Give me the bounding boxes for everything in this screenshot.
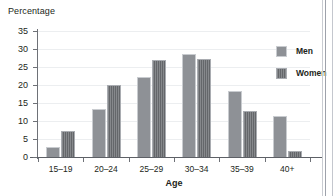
- y-axis-tick-label: 10: [6, 116, 28, 126]
- legend: Men Women: [276, 40, 327, 84]
- page-edge-rule-1: [322, 0, 323, 196]
- x-axis-tick: [265, 158, 266, 162]
- bar-women-40+: [288, 151, 302, 157]
- y-axis-tick: [33, 157, 37, 158]
- legend-swatch-women-icon: [276, 68, 287, 79]
- bar-men-25-29: [137, 77, 151, 157]
- bar-women-15-19: [61, 131, 75, 157]
- bar-women-25-29: [152, 60, 166, 157]
- y-axis-tick-label: 25: [6, 62, 28, 72]
- page-edge-rule-2: [325, 0, 326, 196]
- plot-area: [38, 31, 310, 157]
- chart-screenshot: Percentage 05101520253035 15–1920–2425–2…: [0, 0, 335, 196]
- bar-men-20-24: [92, 109, 106, 157]
- x-axis-tick: [83, 158, 84, 162]
- y-axis-tick: [33, 139, 37, 140]
- x-axis-tick: [310, 158, 311, 162]
- x-axis-tick-label: 25–29: [129, 164, 174, 174]
- y-axis-tick-label: 0: [6, 152, 28, 162]
- y-axis-tick-label: 20: [6, 80, 28, 90]
- y-axis-tick: [33, 121, 37, 122]
- x-axis-title: Age: [38, 178, 310, 188]
- legend-item-women[interactable]: Women: [276, 62, 327, 84]
- x-axis-line: [30, 157, 323, 158]
- x-axis-tick-label: 40+: [265, 164, 310, 174]
- bar-men-35-39: [228, 91, 242, 157]
- x-axis-tick-label: 30–34: [174, 164, 219, 174]
- bar-women-35-39: [243, 111, 257, 157]
- x-axis-tick-label: 35–39: [219, 164, 264, 174]
- y-axis-tick-label: 5: [6, 134, 28, 144]
- x-axis-tick: [219, 158, 220, 162]
- y-axis-tick-label: 35: [6, 26, 28, 36]
- bar-men-15-19: [46, 147, 60, 157]
- y-axis-title: Percentage: [8, 6, 55, 16]
- y-axis-tick-label: 30: [6, 44, 28, 54]
- y-axis-tick: [33, 103, 37, 104]
- legend-swatch-men-icon: [276, 46, 287, 57]
- x-axis-tick: [174, 158, 175, 162]
- y-axis-tick: [33, 67, 37, 68]
- y-axis-tick-label: 15: [6, 98, 28, 108]
- y-axis-tick: [33, 85, 37, 86]
- legend-item-men[interactable]: Men: [276, 40, 327, 62]
- y-axis-tick: [33, 49, 37, 50]
- x-axis-tick-label: 20–24: [83, 164, 128, 174]
- x-axis-tick: [38, 158, 39, 162]
- bar-men-30-34: [182, 54, 196, 157]
- x-axis-tick: [129, 158, 130, 162]
- bar-men-40+: [273, 116, 287, 157]
- y-axis-tick: [33, 31, 37, 32]
- x-axis-tick-label: 15–19: [38, 164, 83, 174]
- legend-label-men: Men: [296, 46, 313, 56]
- page-edge-rule-3: [332, 0, 333, 196]
- bar-women-20-24: [107, 85, 121, 157]
- bar-women-30-34: [197, 59, 211, 157]
